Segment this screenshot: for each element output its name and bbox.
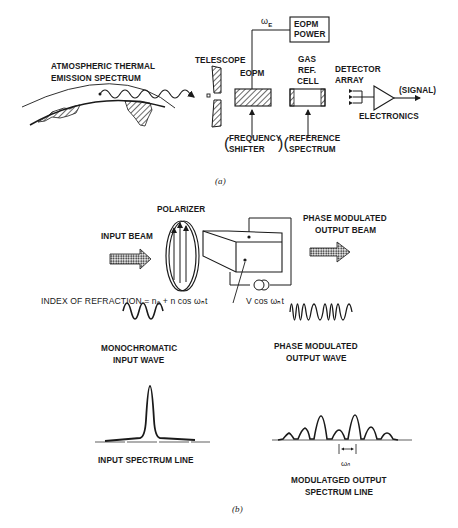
mono-wave-label-2: INPUT WAVE [113,356,164,366]
gas-label-1: GAS [298,55,316,65]
phase-modulated-wave [290,304,352,320]
detector-array [349,89,374,105]
eopm-crystal [235,89,271,106]
freq-shifter-label-2: SHIFTER [229,145,265,155]
modulated-output-spectrum [272,415,412,454]
input-beam-label: INPUT BEAM [101,232,153,242]
voltage-label: V cos ωₙt [246,296,284,306]
polarizer-label: POLARIZER [157,205,205,215]
output-beam-arrow [310,242,350,262]
phase-mod-beam-label-1: PHASE MODULATED [303,214,387,224]
gas-label-3: CELL [297,77,319,87]
signal-label: (SIGNAL) [399,86,436,96]
gas-label-2: REF. [298,66,316,76]
omega-e-label: ωE [261,16,272,30]
detector-label-2: ARRAY [335,76,364,86]
ref-spectrum-label-2: SPECTRUM [289,145,336,155]
ac-voltage-source [254,280,269,290]
input-spectrum-label: INPUT SPECTRUM LINE [98,456,194,466]
freq-shifter-label-1: FREQUENCY [229,134,281,144]
amplifier [374,86,394,110]
detector-label-1: DETECTOR [335,65,381,75]
index-refraction-label: INDEX OF REFRACTION = n₀ + n cos ωₙt [41,296,207,306]
pm-wave-label-2: OUTPUT WAVE [286,354,347,364]
field-stop [207,94,210,97]
pm-wave-label-1: PHASE MODULATED [274,342,358,352]
gas-reference-cell [290,89,325,106]
atmospheric-label-1: ATMOSPHERIC THERMAL [51,62,155,72]
thermal-emission-wave [100,90,194,98]
caption-b: (b) [232,504,243,514]
ref-spectrum-label-1: REFERENCE [289,134,340,144]
eopm-power-line [252,30,290,89]
electronics-label: ELECTRONICS [359,112,419,122]
mono-wave-label-1: MONOCHROMATIC [101,344,177,354]
eo-crystal-box [203,218,291,303]
caption-a: (a) [215,176,226,186]
telescope-mirror [212,66,221,127]
mod-spectrum-label-2: SPECTRUM LINE [305,488,373,498]
eopm-power-label-1: EOPM [294,20,319,30]
eopm-label: EOPM [240,69,265,79]
phase-mod-beam-label-2: OUTPUT BEAM [315,226,376,236]
ref-spectrum-paren: )( [278,133,289,155]
input-beam-arrow [110,249,151,269]
input-spectrum-line [95,386,210,442]
polarizer [166,221,199,291]
earth-atmosphere [22,84,175,126]
eopm-power-label-2: POWER [294,30,325,40]
omega-n-label: ωₙ [341,459,350,469]
telescope-label: TELESCOPE [195,56,246,66]
atmospheric-label-2: EMISSION SPECTRUM [51,74,141,84]
mod-spectrum-label-1: MODULATGED OUTPUT [291,476,387,486]
